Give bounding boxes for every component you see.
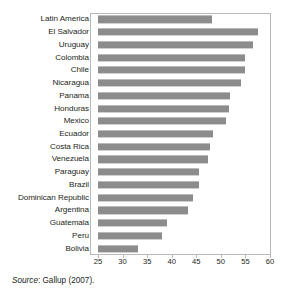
- bar: [98, 54, 245, 61]
- source-label: Source: [12, 276, 38, 285]
- x-axis-tick-label: 45: [192, 258, 200, 266]
- bar: [98, 118, 226, 125]
- category-label: Brazil: [69, 181, 89, 189]
- category-label: Panama: [59, 92, 89, 100]
- bar: [98, 169, 199, 176]
- bar-row: Chile: [0, 64, 286, 77]
- bar-track: [98, 191, 271, 204]
- category-label: Honduras: [54, 104, 89, 112]
- bar-track: [98, 229, 271, 242]
- bar-row: Nicaragua: [0, 77, 286, 90]
- bar: [98, 41, 253, 48]
- bar-row: Dominican Republic: [0, 191, 286, 204]
- bar-row: Latin America: [0, 13, 286, 26]
- bar-row: Honduras: [0, 102, 286, 115]
- bar-track: [98, 115, 271, 128]
- bar: [98, 16, 212, 23]
- category-label: Ecuador: [59, 130, 89, 138]
- bar-row: Venezuela: [0, 153, 286, 166]
- source-caption: Source: Gallup (2007).: [12, 277, 94, 285]
- category-label: Peru: [72, 232, 89, 240]
- x-axis-tick-label: 25: [94, 258, 102, 266]
- bar: [98, 194, 193, 201]
- bar-row: Guatemala: [0, 217, 286, 230]
- bar: [98, 79, 241, 86]
- bar-row: Ecuador: [0, 128, 286, 141]
- bar-track: [98, 153, 271, 166]
- category-label: Chile: [71, 66, 89, 74]
- x-axis-tick-label: 55: [241, 258, 249, 266]
- bar-row: Argentina: [0, 204, 286, 217]
- category-label: Costa Rica: [50, 143, 89, 151]
- bar: [98, 232, 162, 239]
- bar-track: [98, 89, 271, 102]
- bar: [98, 143, 210, 150]
- category-label: El Salvador: [48, 28, 89, 36]
- bar-row: Paraguay: [0, 166, 286, 179]
- x-axis-tick-label: 30: [118, 258, 126, 266]
- bar-track: [98, 102, 271, 115]
- bar-track: [98, 26, 271, 39]
- bar-track: [98, 242, 271, 255]
- bar: [98, 130, 213, 137]
- bar-row: Uruguay: [0, 38, 286, 51]
- bar: [98, 105, 229, 112]
- bar: [98, 207, 188, 214]
- source-text: : Gallup (2007).: [38, 276, 94, 285]
- bar-track: [98, 51, 271, 64]
- bar-row: Panama: [0, 89, 286, 102]
- bar-track: [98, 217, 271, 230]
- category-label: Uruguay: [59, 41, 89, 49]
- x-axis-tick-label: 40: [167, 258, 175, 266]
- figure-container: Latin AmericaEl SalvadorUruguayColombiaC…: [0, 0, 286, 297]
- bar-row: Colombia: [0, 51, 286, 64]
- bar: [98, 92, 230, 99]
- bar: [98, 156, 208, 163]
- bar-track: [98, 13, 271, 26]
- bar-rows: Latin AmericaEl SalvadorUruguayColombiaC…: [0, 13, 286, 255]
- bar-row: Bolivia: [0, 242, 286, 255]
- category-label: Bolivia: [66, 245, 90, 253]
- bar-row: El Salvador: [0, 26, 286, 39]
- category-label: Latin America: [41, 15, 89, 23]
- x-axis-tick-label: 60: [266, 258, 274, 266]
- category-label: Mexico: [64, 117, 89, 125]
- bar-row: Brazil: [0, 179, 286, 192]
- bar-row: Peru: [0, 229, 286, 242]
- bar-track: [98, 38, 271, 51]
- bar-track: [98, 166, 271, 179]
- bar-row: Costa Rica: [0, 140, 286, 153]
- bar: [98, 181, 199, 188]
- bar-track: [98, 77, 271, 90]
- x-axis: 2530354045505560: [90, 255, 271, 273]
- category-label: Nicaragua: [53, 79, 89, 87]
- bar: [98, 67, 245, 74]
- x-axis-tick-label: 35: [143, 258, 151, 266]
- x-axis-tick-label: 50: [217, 258, 225, 266]
- category-label: Argentina: [55, 206, 89, 214]
- bar: [98, 220, 167, 227]
- bar: [98, 29, 258, 36]
- bar-track: [98, 64, 271, 77]
- category-label: Paraguay: [55, 168, 89, 176]
- bar-track: [98, 204, 271, 217]
- category-label: Dominican Republic: [18, 194, 89, 202]
- category-label: Venezuela: [52, 155, 89, 163]
- bar: [98, 245, 138, 252]
- category-label: Guatemala: [50, 219, 89, 227]
- bar-row: Mexico: [0, 115, 286, 128]
- bar-track: [98, 128, 271, 141]
- bar-track: [98, 140, 271, 153]
- bar-track: [98, 179, 271, 192]
- category-label: Colombia: [55, 54, 89, 62]
